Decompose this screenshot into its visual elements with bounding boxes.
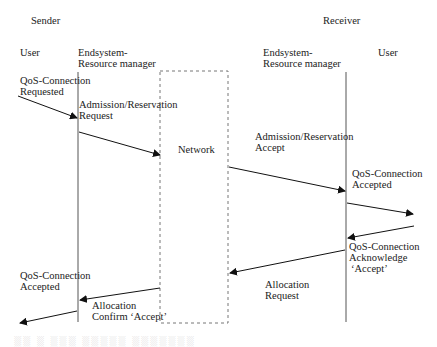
msg-m1-line2: Requested bbox=[20, 86, 64, 97]
network-label: Network bbox=[178, 144, 215, 155]
msg-m3-line2: Accept bbox=[255, 142, 285, 153]
msg-m8-line2: Accepted bbox=[20, 281, 60, 292]
arrow-m2 bbox=[79, 132, 160, 155]
sender-group-label: Sender bbox=[31, 15, 60, 26]
sender-user-label: User bbox=[20, 47, 40, 58]
receiver-rm-label-2: Resource manager bbox=[263, 58, 341, 69]
receiver-group-label: Receiver bbox=[323, 15, 360, 26]
msg-m6-line2: Request bbox=[265, 290, 299, 301]
msg-m8-line1: QoS-Connection bbox=[20, 270, 91, 281]
arrow-m6 bbox=[230, 250, 345, 273]
arrow-m3 bbox=[229, 167, 345, 191]
receiver-rm-label-1: Endsystem- bbox=[263, 47, 313, 58]
msg-m1-line1: QoS-Connection bbox=[20, 75, 91, 86]
receiver-user-label: User bbox=[378, 47, 398, 58]
msg-m5-line1: QoS-Connection bbox=[349, 241, 420, 252]
sender-rm-label-1: Endsystem- bbox=[78, 47, 128, 58]
arrow-m1 bbox=[18, 96, 77, 118]
sender-rm-label-2: Resource manager bbox=[78, 58, 156, 69]
msg-m2-line1: Admission/Reservation bbox=[79, 99, 178, 110]
figure-caption: ░░ ░ ░░░ ░░░░░ ░░░░░░░ bbox=[14, 336, 196, 347]
msg-m6-line1: Allocation bbox=[265, 279, 309, 290]
msg-m3-line1: Admission/Reservation bbox=[255, 131, 354, 142]
msg-m7-line2: Confirm ‘Accept’ bbox=[92, 311, 167, 322]
msg-m7-line1: Allocation bbox=[92, 300, 136, 311]
arrow-m4 bbox=[347, 203, 413, 214]
arrow-m5 bbox=[348, 226, 414, 238]
msg-m4-line1: QoS-Connection bbox=[352, 168, 423, 179]
msg-m2-line2: Request bbox=[79, 110, 113, 121]
msg-m5-line2: Acknowledge bbox=[349, 252, 407, 263]
arrow-m8 bbox=[20, 311, 77, 323]
msg-m5-line3: ‘Accept’ bbox=[351, 263, 388, 274]
arrow-m7 bbox=[80, 288, 160, 300]
msg-m4-line2: Accepted bbox=[352, 179, 392, 190]
